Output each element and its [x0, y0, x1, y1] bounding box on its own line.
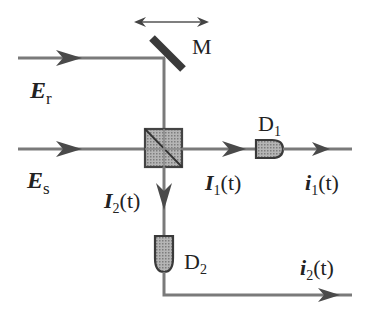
reference-field-label: Er — [30, 78, 52, 107]
current-2-label: i2(t) — [300, 257, 334, 283]
output-beam-1 — [182, 141, 258, 157]
balanced-heterodyne-diagram: M Er Es D1 D2 I1(t) I2(t) i1(t) i2(t) — [0, 0, 370, 317]
detector-1-icon — [256, 140, 283, 158]
mirror-motion-arrow — [134, 17, 209, 27]
reference-beam — [18, 50, 165, 66]
mirror-icon — [152, 38, 183, 69]
output-beam-2 — [156, 167, 172, 237]
signal-beam — [18, 141, 146, 157]
intensity-2-label: I2(t) — [104, 190, 140, 216]
intensity-1-label: I1(t) — [205, 172, 241, 198]
detector-1-label: D1 — [258, 113, 281, 139]
detector-2-label: D2 — [184, 251, 207, 277]
detector-2-icon — [155, 236, 173, 272]
current-1-label: i1(t) — [305, 172, 339, 198]
signal-field-label: Es — [27, 168, 50, 197]
mirror-label: M — [192, 36, 212, 58]
current-output-1 — [283, 142, 352, 156]
beam-splitter-icon — [145, 129, 182, 167]
